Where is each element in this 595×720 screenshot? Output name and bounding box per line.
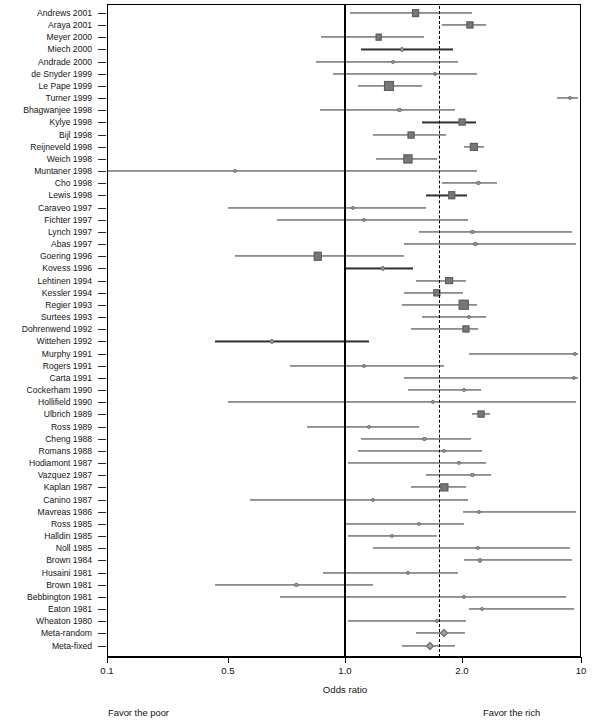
row-tick bbox=[98, 293, 106, 294]
row-tick bbox=[98, 329, 106, 330]
row-tick bbox=[98, 62, 106, 63]
confidence-interval-line bbox=[442, 183, 496, 184]
study-label: Lewis 1998 bbox=[4, 190, 92, 200]
row-tick bbox=[98, 427, 106, 428]
study-label: Abas 1997 bbox=[4, 239, 92, 249]
row-tick bbox=[98, 49, 106, 50]
effect-size-marker-square bbox=[412, 9, 420, 17]
confidence-interval-line bbox=[426, 475, 490, 476]
row-tick bbox=[98, 232, 106, 233]
x-axis-tick-label: 1.0 bbox=[338, 665, 351, 676]
row-tick bbox=[98, 548, 106, 549]
study-label: Araya 2001 bbox=[4, 20, 92, 30]
confidence-interval-line bbox=[348, 621, 466, 622]
confidence-interval-line bbox=[280, 596, 566, 597]
row-tick bbox=[98, 609, 106, 610]
study-label: Kessler 1994 bbox=[4, 288, 92, 298]
row-tick bbox=[98, 451, 106, 452]
effect-size-marker-square bbox=[375, 34, 382, 41]
row-tick bbox=[98, 487, 106, 488]
confidence-interval-line bbox=[333, 73, 477, 74]
row-tick bbox=[98, 621, 106, 622]
confidence-interval-line bbox=[321, 37, 424, 38]
x-axis-tick bbox=[345, 657, 346, 663]
study-label: Ulbrich 1989 bbox=[4, 409, 92, 419]
x-axis-tick bbox=[581, 657, 582, 663]
study-label: Bhagwanjee 1998 bbox=[4, 105, 92, 115]
row-tick bbox=[98, 512, 106, 513]
study-label: Brown 1981 bbox=[4, 580, 92, 590]
confidence-interval-line bbox=[361, 438, 471, 439]
row-tick bbox=[98, 208, 106, 209]
effect-size-marker-square bbox=[408, 131, 415, 138]
row-tick bbox=[98, 171, 106, 172]
study-label: Fichter 1997 bbox=[4, 215, 92, 225]
row-tick bbox=[98, 560, 106, 561]
row-tick bbox=[98, 195, 106, 196]
study-label: Bebbington 1981 bbox=[4, 592, 92, 602]
row-tick bbox=[98, 573, 106, 574]
study-label: Lynch 1997 bbox=[4, 227, 92, 237]
confidence-interval-line bbox=[107, 171, 477, 172]
row-tick bbox=[98, 256, 106, 257]
study-label: Vazquez 1987 bbox=[4, 470, 92, 480]
study-label: Turner 1999 bbox=[4, 93, 92, 103]
study-label: Miech 2000 bbox=[4, 44, 92, 54]
row-tick bbox=[98, 220, 106, 221]
study-label: Eaton 1981 bbox=[4, 604, 92, 614]
study-label: Muntaner 1998 bbox=[4, 166, 92, 176]
study-label: Meta-random bbox=[4, 628, 92, 638]
row-tick bbox=[98, 378, 106, 379]
confidence-interval-line bbox=[373, 548, 570, 549]
study-label: Hodiamont 1987 bbox=[4, 458, 92, 468]
favor-the-rich-label: Favor the rich bbox=[483, 707, 540, 718]
confidence-interval-line bbox=[228, 207, 426, 208]
confidence-interval-line bbox=[408, 390, 481, 391]
x-axis-tick bbox=[228, 657, 229, 663]
confidence-interval-line bbox=[469, 353, 578, 354]
study-label: Caraveo 1997 bbox=[4, 203, 92, 213]
effect-size-marker-square bbox=[441, 484, 448, 491]
confidence-interval-line bbox=[419, 231, 572, 232]
study-label: Meta-fixed bbox=[4, 641, 92, 651]
row-tick bbox=[98, 366, 106, 367]
effect-size-marker-square bbox=[445, 277, 453, 285]
study-label: Wheaton 1980 bbox=[4, 616, 92, 626]
study-label: Kovess 1996 bbox=[4, 263, 92, 273]
x-axis-tick bbox=[462, 657, 463, 663]
row-tick bbox=[98, 37, 106, 38]
confidence-interval-line bbox=[442, 25, 485, 26]
study-label: Le Pape 1999 bbox=[4, 81, 92, 91]
study-label: Weich 1998 bbox=[4, 154, 92, 164]
row-tick bbox=[98, 475, 106, 476]
confidence-interval-line bbox=[290, 365, 445, 366]
x-axis-tick-label: 10 bbox=[576, 665, 587, 676]
pooled-effect-line bbox=[439, 6, 440, 657]
confidence-interval-line bbox=[348, 463, 486, 464]
study-label: Cheng 1988 bbox=[4, 434, 92, 444]
effect-size-marker-square bbox=[448, 192, 456, 200]
study-label: Goering 1996 bbox=[4, 251, 92, 261]
row-tick bbox=[98, 500, 106, 501]
row-tick bbox=[98, 110, 106, 111]
null-effect-line bbox=[344, 4, 345, 657]
study-label: Andrews 2001 bbox=[4, 8, 92, 18]
study-label: Noll 1985 bbox=[4, 543, 92, 553]
row-tick bbox=[98, 268, 106, 269]
row-tick bbox=[98, 585, 106, 586]
study-label: Ross 1989 bbox=[4, 422, 92, 432]
study-label: Murphy 1991 bbox=[4, 349, 92, 359]
study-label: Brown 1984 bbox=[4, 555, 92, 565]
effect-size-marker-square bbox=[313, 252, 321, 260]
study-label: Meyer 2000 bbox=[4, 32, 92, 42]
study-label: Rogers 1991 bbox=[4, 361, 92, 371]
row-tick bbox=[98, 122, 106, 123]
row-tick bbox=[98, 463, 106, 464]
row-tick bbox=[98, 13, 106, 14]
row-tick bbox=[98, 439, 106, 440]
x-axis-tick-label: 0.5 bbox=[221, 665, 234, 676]
study-label: Kylye 1998 bbox=[4, 117, 92, 127]
study-label: Andrade 2000 bbox=[4, 57, 92, 67]
study-label: Hollifield 1990 bbox=[4, 397, 92, 407]
effect-size-marker-square bbox=[466, 22, 473, 29]
